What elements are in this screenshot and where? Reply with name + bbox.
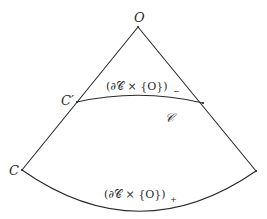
inner-arc-label: (∂𝒞 × {O}) − — [106, 80, 180, 96]
cone-diagram: O C′ C (∂𝒞 × {O}) − 𝒞 (∂𝒞 × {O}) + — [0, 0, 267, 219]
point-c-prime — [76, 101, 78, 103]
inner-arc — [77, 95, 203, 103]
point-inner-right — [202, 102, 204, 104]
outer-arc-label-subscript: + — [170, 195, 177, 204]
right-ray — [138, 27, 256, 171]
region-label: 𝒞 — [165, 111, 177, 125]
inner-arc-label-subscript: − — [173, 87, 180, 96]
point-apex — [137, 26, 139, 28]
left-ray — [22, 27, 138, 170]
inner-arc-label-text: (∂𝒞 × {O}) — [106, 80, 168, 93]
outer-arc-label-text: (∂𝒞 × {O}) — [104, 188, 166, 201]
outer-arc-label: (∂𝒞 × {O}) + — [104, 188, 177, 204]
point-outer-right — [255, 170, 257, 172]
c-prime-label: C′ — [61, 93, 74, 108]
c-label: C — [9, 163, 19, 178]
point-c — [21, 169, 23, 171]
apex-label: O — [134, 10, 145, 25]
